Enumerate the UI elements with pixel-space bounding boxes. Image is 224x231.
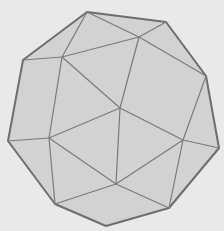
polyhedron-diagram [0,0,224,231]
